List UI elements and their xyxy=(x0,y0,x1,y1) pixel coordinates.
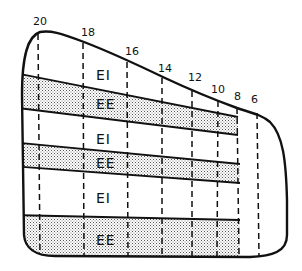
station-label: 8 xyxy=(234,90,241,103)
station-label: 20 xyxy=(33,15,47,28)
shaded-bands xyxy=(10,72,240,270)
zone-label-ei: EI xyxy=(96,131,111,147)
station-6-line xyxy=(257,113,259,256)
station-label: 6 xyxy=(251,93,258,106)
zone-label-ee: EE xyxy=(96,232,116,248)
station-label: 14 xyxy=(158,62,172,75)
ee-band-3 xyxy=(10,215,240,270)
zone-label-ei: EI xyxy=(96,67,111,83)
zone-label-ei: EI xyxy=(96,190,111,206)
ee-band-2 xyxy=(10,142,240,183)
zone-label-ee: EE xyxy=(96,155,116,171)
zone-label-ee: EE xyxy=(96,96,116,112)
ee-band-1 xyxy=(10,72,238,135)
station-label: 10 xyxy=(211,83,225,96)
station-label: 18 xyxy=(81,26,95,39)
station-label: 12 xyxy=(188,71,202,84)
station-label: 16 xyxy=(125,45,139,58)
ship-hull-zone-diagram: 20 18 16 14 12 10 8 6 EI EE EI EE EI EE xyxy=(0,0,302,271)
